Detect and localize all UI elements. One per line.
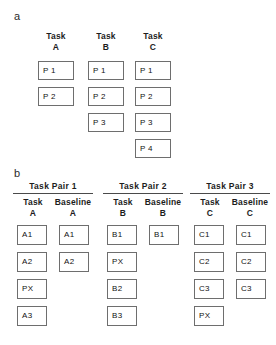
task-pair-2-task-column: Task B B1 PX B2 B3 (103, 197, 143, 218)
panel-a-column-task-a-header-line2: A (33, 42, 79, 53)
process-box: P 1 (135, 61, 171, 80)
task-pair-3-baseline-header-line1: Baseline (232, 197, 269, 207)
process-box: B3 (107, 306, 137, 326)
task-pair-1-task-boxes: A1 A2 PX A3 (17, 225, 47, 333)
panel-a-column-task-b-header-line1: Task (96, 31, 116, 41)
panel-b-group-task-pair-3: Task Pair 3 Task C C1 C2 C3 PX Baseline … (190, 181, 270, 331)
task-pair-1-baseline-header-line2: A (53, 208, 93, 219)
task-pair-3-task-boxes: C1 C2 C3 PX (194, 225, 224, 333)
task-pair-3-baseline-boxes: C1 C2 C3 (236, 225, 266, 306)
process-box: P 4 (135, 139, 171, 158)
task-pair-3-baseline-header-line2: C (230, 208, 270, 219)
task-pair-3-task-header-line2: C (190, 208, 230, 219)
figure-canvas: a Task A P 1 P 2 Task B P 1 P 2 P 3 Task… (0, 0, 276, 345)
panel-a-column-task-c-header-line1: Task (143, 31, 163, 41)
task-pair-1-task-header: Task A (13, 197, 53, 218)
process-box: A2 (17, 252, 47, 272)
process-box: PX (107, 252, 137, 272)
task-pair-2-task-header-line1: Task (113, 197, 133, 207)
process-box: P 1 (38, 61, 74, 80)
task-pair-2-baseline-boxes: B1 (149, 225, 179, 252)
task-pair-2-task-boxes: B1 PX B2 B3 (107, 225, 137, 333)
task-pair-1-baseline-header: Baseline A (53, 197, 93, 218)
task-pair-2-baseline-header: Baseline B (143, 197, 183, 218)
process-box: A2 (59, 252, 89, 272)
panel-b-group-task-pair-2: Task Pair 2 Task B B1 PX B2 B3 Baseline … (103, 181, 183, 331)
panel-a-column-task-b-header-line2: B (83, 42, 129, 53)
process-box: P 2 (38, 87, 74, 106)
panel-a-column-task-a-header: Task A (33, 31, 79, 52)
task-pair-3-task-header-line1: Task (200, 197, 220, 207)
panel-b-group-task-pair-1: Task Pair 1 Task A A1 A2 PX A3 Baseline … (13, 181, 93, 331)
panel-a-label: a (14, 11, 20, 22)
process-box: C1 (236, 225, 266, 245)
process-box: C3 (194, 279, 224, 299)
process-box: C1 (194, 225, 224, 245)
process-box: B2 (107, 279, 137, 299)
task-pair-1-task-column: Task A A1 A2 PX A3 (13, 197, 53, 218)
process-box: B1 (107, 225, 137, 245)
task-pair-1-baseline-boxes: A1 A2 (59, 225, 89, 279)
task-pair-3-baseline-column: Baseline C C1 C2 C3 (230, 197, 270, 218)
panel-a-column-task-b-boxes: P 1 P 2 P 3 (88, 61, 124, 139)
task-pair-2-baseline-column: Baseline B B1 (143, 197, 183, 218)
process-box: C2 (194, 252, 224, 272)
task-pair-2-task-header-line2: B (103, 208, 143, 219)
task-pair-3-baseline-header: Baseline C (230, 197, 270, 218)
task-pair-2-task-header: Task B (103, 197, 143, 218)
task-pair-3-task-header: Task C (190, 197, 230, 218)
task-pair-3-task-column: Task C C1 C2 C3 PX (190, 197, 230, 218)
task-pair-title: Task Pair 3 (190, 181, 270, 194)
panel-a-column-task-a-boxes: P 1 P 2 (38, 61, 74, 113)
panel-a-column-task-b-header: Task B (83, 31, 129, 52)
task-pair-title: Task Pair 2 (103, 181, 183, 194)
panel-a-column-task-c: Task C P 1 P 2 P 3 P 4 (130, 31, 176, 151)
process-box: PX (194, 306, 224, 326)
panel-b-label: b (14, 168, 20, 179)
panel-a-column-task-c-boxes: P 1 P 2 P 3 P 4 (135, 61, 171, 165)
process-box: P 1 (88, 61, 124, 80)
process-box: B1 (149, 225, 179, 245)
process-box: C2 (236, 252, 266, 272)
task-pair-2-baseline-header-line1: Baseline (145, 197, 182, 207)
panel-a-column-task-b: Task B P 1 P 2 P 3 (83, 31, 129, 151)
process-box: P 3 (88, 113, 124, 132)
task-pair-1-baseline-column: Baseline A A1 A2 (53, 197, 93, 218)
task-pair-1-task-header-line2: A (13, 208, 53, 219)
process-box: PX (17, 279, 47, 299)
process-box: A1 (17, 225, 47, 245)
task-pair-1-baseline-header-line1: Baseline (55, 197, 92, 207)
task-pair-1-task-header-line1: Task (23, 197, 43, 207)
panel-a-column-task-c-header: Task C (130, 31, 176, 52)
panel-a-column-task-c-header-line2: C (130, 42, 176, 53)
process-box: C3 (236, 279, 266, 299)
process-box: P 3 (135, 113, 171, 132)
panel-a-column-task-a: Task A P 1 P 2 (33, 31, 79, 151)
panel-a-column-task-a-header-line1: Task (46, 31, 66, 41)
process-box: P 2 (135, 87, 171, 106)
task-pair-title: Task Pair 1 (13, 181, 93, 194)
process-box: P 2 (88, 87, 124, 106)
process-box: A3 (17, 306, 47, 326)
process-box: A1 (59, 225, 89, 245)
task-pair-2-baseline-header-line2: B (143, 208, 183, 219)
